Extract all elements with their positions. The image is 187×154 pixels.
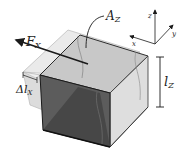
- shear-diagram: FX AZ ΔlX lZ z x y: [0, 0, 187, 154]
- axis-z-label: z: [147, 12, 152, 20]
- height-dimension: [156, 57, 164, 107]
- area-label: AZ: [105, 9, 121, 24]
- force-label: FX: [25, 34, 41, 50]
- height-label: lZ: [164, 74, 174, 90]
- axis-y-label: y: [171, 30, 177, 38]
- axis-x-label: x: [132, 40, 136, 48]
